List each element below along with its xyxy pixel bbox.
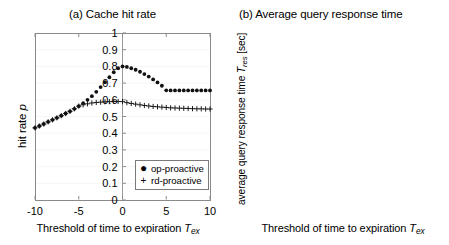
y-tickmarks-a [123, 33, 127, 200]
svg-text:0.5: 0.5 [102, 111, 117, 123]
y-axis-label-a: hit rate p [16, 104, 28, 148]
svg-text:0.6: 0.6 [102, 94, 117, 106]
svg-text:0.9: 0.9 [102, 44, 117, 56]
y-axis-label-a-symbol: p [16, 104, 28, 110]
legend-label-op-proactive-a: op-proactive [151, 163, 204, 175]
svg-text:-10: -10 [27, 205, 43, 217]
y-axis-label-b-text: average query response time [236, 76, 247, 205]
x-axis-label-b: Threshold of time to expiration Tex [245, 222, 441, 236]
svg-text:0.2: 0.2 [102, 161, 117, 173]
legend-a: ● op-proactive + rd-proactive [135, 160, 209, 190]
x-axis-label-b-text: Threshold of time to expiration [261, 222, 406, 234]
y-axis-label-b: average query response time Tres [sec] [236, 33, 249, 205]
y-axis-label-b-symbol: T [236, 67, 247, 73]
x-axis-label-b-subscript: ex [416, 226, 425, 236]
y-ticklabels-a: 00.10.20.30.40.50.60.70.80.91 [102, 27, 117, 206]
filled-circle-marker-icon: ● [139, 163, 148, 175]
svg-text:0.4: 0.4 [102, 127, 117, 139]
chart-title-a: (a) Cache hit rate [0, 8, 225, 20]
y-axis-label-b-unit: [sec] [236, 33, 247, 54]
x-axis-label-a: Threshold of time to expiration Tex [18, 222, 218, 236]
plus-marker-icon: + [139, 175, 148, 187]
svg-text:10: 10 [204, 205, 216, 217]
x-axis-label-a-subscript: ex [191, 226, 200, 236]
x-axis-label-b-symbol: T [409, 222, 416, 234]
legend-item-rd-proactive-a: + rd-proactive [139, 175, 204, 187]
legend-item-op-proactive-a: ● op-proactive [139, 163, 204, 175]
figure-root: (a) Cache hit rate hit rate p 00.10.20.3… [0, 0, 449, 245]
x-axis-label-a-symbol: T [184, 222, 191, 234]
x-ticklabels-a: -10-50510 [27, 205, 216, 217]
legend-label-rd-proactive-a: rd-proactive [151, 175, 202, 187]
svg-text:1: 1 [111, 27, 117, 39]
svg-text:5: 5 [163, 205, 169, 217]
svg-text:0.1: 0.1 [102, 177, 117, 189]
svg-text:0: 0 [111, 194, 117, 206]
chart-title-b: (b) Average query response time [239, 8, 449, 20]
svg-text:-5: -5 [74, 205, 84, 217]
chart-panel-cache-hit-rate: (a) Cache hit rate hit rate p 00.10.20.3… [0, 0, 225, 245]
y-axis-label-b-subscript: res [240, 56, 249, 66]
y-axis-label-a-text: hit rate [16, 114, 28, 148]
svg-text:0.3: 0.3 [102, 144, 117, 156]
chart-panel-avg-query-response-time: (b) Average query response time average … [225, 0, 449, 245]
svg-text:0.8: 0.8 [102, 60, 117, 72]
svg-text:0: 0 [119, 205, 125, 217]
x-axis-label-a-text: Threshold of time to expiration [36, 222, 181, 234]
